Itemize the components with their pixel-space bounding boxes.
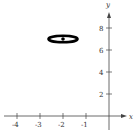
chart: x y -4 -3 -2 -1 2 4 6 8 <box>0 0 134 130</box>
x-tick-label: -4 <box>12 121 19 129</box>
x-axis-arrow-icon <box>121 114 127 118</box>
y-axis-arrow-icon <box>107 12 111 18</box>
y-tick-label: 8 <box>99 25 103 33</box>
y-tick-label: 4 <box>99 69 104 77</box>
y-ticks: 2 4 6 8 <box>99 25 112 99</box>
x-axis-label: x <box>129 113 133 121</box>
x-tick-label: -3 <box>35 121 42 129</box>
y-tick-label: 2 <box>99 91 103 99</box>
center-point <box>61 37 65 41</box>
x-tick-label: -2 <box>58 121 65 129</box>
y-axis-label: y <box>105 1 111 9</box>
x-ticks: -4 -3 -2 -1 <box>12 113 88 129</box>
y-tick-label: 6 <box>99 47 104 55</box>
x-tick-label: -1 <box>81 121 88 129</box>
